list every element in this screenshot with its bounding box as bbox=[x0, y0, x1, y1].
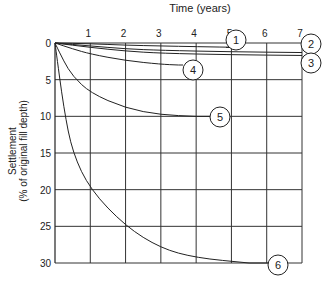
x-tick-label: 4 bbox=[191, 28, 197, 39]
x-tick-label: 1 bbox=[86, 28, 92, 39]
series-label-1: 1 bbox=[233, 34, 239, 46]
y-tick-label: 20 bbox=[40, 185, 52, 196]
y-tick-label: 30 bbox=[40, 258, 52, 269]
x-tick-label: 7 bbox=[297, 28, 303, 39]
series-label-6: 6 bbox=[275, 259, 281, 271]
series-label-5: 5 bbox=[217, 111, 223, 123]
series-label-2: 2 bbox=[308, 38, 314, 50]
settlement-chart: 1234567051015202530123456 bbox=[0, 0, 330, 284]
y-tick-label: 5 bbox=[45, 75, 51, 86]
y-tick-label: 0 bbox=[45, 38, 51, 49]
x-tick-label: 6 bbox=[262, 28, 268, 39]
y-tick-label: 15 bbox=[40, 148, 52, 159]
y-tick-label: 25 bbox=[40, 221, 52, 232]
series-label-3: 3 bbox=[308, 57, 314, 69]
x-tick-label: 3 bbox=[156, 28, 162, 39]
series-label-4: 4 bbox=[190, 64, 196, 76]
y-tick-label: 10 bbox=[40, 111, 52, 122]
x-tick-label: 2 bbox=[121, 28, 127, 39]
